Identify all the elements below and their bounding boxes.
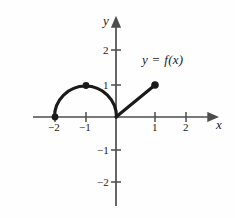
- x-tick-label-pos1: 1: [152, 122, 158, 133]
- x-tick-label-neg2: −2: [48, 122, 60, 133]
- x-tick-label-pos2: 2: [183, 122, 189, 133]
- y-tick-label-pos2: 2: [103, 45, 109, 56]
- x-tick-label-neg1: −1: [79, 122, 91, 133]
- x-axis-label: x: [216, 118, 222, 131]
- y-tick-label-neg1: −1: [97, 145, 109, 156]
- graph-canvas: [0, 0, 235, 218]
- y-tick-label-neg2: −2: [97, 177, 109, 188]
- point-marker-right-endpoint: [151, 81, 159, 89]
- y-axis-label: y: [103, 14, 109, 27]
- y-tick-label-pos1: 1: [103, 80, 109, 91]
- function-annotation-label: y = f(x): [142, 53, 183, 66]
- linear-segment-curve: [116, 85, 155, 117]
- point-marker-arc-peak: [83, 82, 90, 89]
- point-marker-left-endpoint: [52, 114, 59, 121]
- function-graph-figure: −2 −1 1 2 2 1 −1 −2 x y y = f(x): [0, 0, 235, 218]
